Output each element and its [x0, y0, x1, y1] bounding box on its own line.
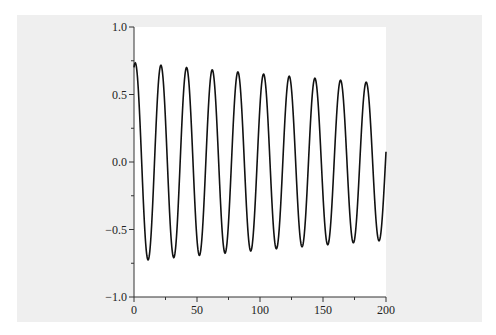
x-tick-label: 100 — [251, 303, 269, 317]
x-tick-label: 0 — [131, 303, 137, 317]
x-tick-label: 150 — [314, 303, 332, 317]
x-tick-label: 200 — [377, 303, 395, 317]
plot-area — [134, 27, 386, 297]
x-tick-label: 50 — [191, 303, 203, 317]
y-tick-label: 0.0 — [112, 155, 127, 169]
line-chart: 1.00.50.0−0.5−1.0050100150200 — [0, 0, 496, 335]
y-tick-label: 0.5 — [112, 88, 127, 102]
y-tick-label: 1.0 — [112, 20, 127, 34]
y-tick-label: −0.5 — [105, 223, 127, 237]
y-tick-label: −1.0 — [105, 290, 127, 304]
